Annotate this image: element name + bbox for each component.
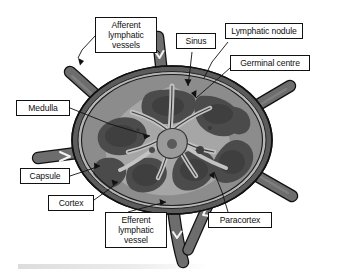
label-efferent-lymphatic-vessel: Efferent lymphatic vessel <box>105 212 167 248</box>
label-paracortex: Paracortex <box>208 212 272 228</box>
lymph-node-diagram <box>0 0 344 273</box>
label-cortex: Cortex <box>48 195 94 211</box>
label-germinal-centre: Germinal centre <box>230 55 310 71</box>
label-capsule: Capsule <box>20 168 70 184</box>
leader-afferent-left <box>78 36 95 58</box>
label-afferent-lymphatic-vessels: Afferent lymphatic vessels <box>95 17 157 53</box>
label-sinus: Sinus <box>176 33 216 49</box>
label-lymphatic-nodule: Lymphatic nodule <box>225 23 303 39</box>
label-medulla: Medulla <box>16 100 70 116</box>
lymph-node-body <box>72 66 272 214</box>
footer-caption-fragment <box>18 264 208 269</box>
